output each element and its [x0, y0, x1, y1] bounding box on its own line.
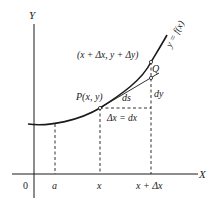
- ds-label: ds: [122, 92, 131, 103]
- tick-label-x: x: [96, 180, 102, 191]
- x-axis-label: X: [198, 168, 207, 180]
- tick-label-a: a: [52, 180, 57, 191]
- q-label: Q: [152, 63, 160, 74]
- p-label: P(x, y): [75, 91, 103, 103]
- origin-label: 0: [23, 180, 28, 191]
- tick-label-x-plus-dx: x + Δx: [135, 180, 163, 191]
- point-q: [149, 76, 152, 79]
- arc-length-diagram: Y X 0 a x x + Δx (x + Δx, y + Δy) Q P(x,…: [0, 0, 214, 200]
- curve-label: y = f(x): [163, 19, 187, 50]
- curve-f-of-x: [28, 35, 167, 125]
- point-p: [98, 106, 101, 109]
- dx-label: Δx = dx: [106, 113, 138, 123]
- dy-label: dy: [154, 88, 164, 99]
- y-axis-label: Y: [29, 9, 37, 21]
- upper-point-label: (x + Δx, y + Δy): [77, 50, 138, 61]
